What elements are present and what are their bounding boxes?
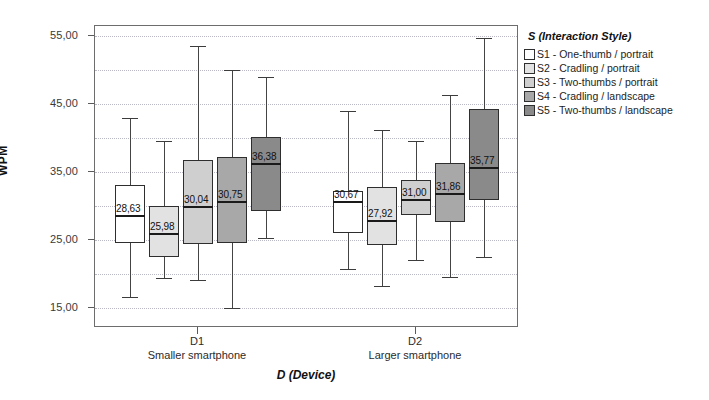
whisker-cap-lower (224, 308, 240, 309)
median-line (333, 201, 363, 203)
legend-item-label: S4 - Cradling / landscape (537, 90, 655, 102)
whisker-cap-lower (190, 280, 206, 281)
median-value-label: 28,63 (116, 203, 141, 214)
whisker-cap-upper (476, 38, 492, 39)
legend-swatch (524, 91, 535, 102)
whisker-cap-upper (340, 111, 356, 112)
median-value-label: 31,86 (436, 181, 461, 192)
median-line (183, 206, 213, 208)
whisker-cap-lower (156, 278, 172, 279)
whisker-cap-upper (408, 141, 424, 142)
median-line (149, 233, 179, 235)
gridline (95, 70, 517, 71)
median-value-label: 30,67 (334, 189, 359, 200)
median-line (469, 167, 499, 169)
x-axis-group-label: D2Larger smartphone (325, 334, 505, 362)
legend-item-list: S1 - One-thumb / portraitS2 - Cradling /… (524, 48, 706, 116)
y-axis-tick-label: 45,00 (8, 97, 78, 109)
x-axis-group-code: D2 (325, 334, 505, 348)
y-axis-tick-label: 25,00 (8, 233, 78, 245)
median-line (115, 215, 145, 217)
whisker-cap-upper (156, 141, 172, 142)
median-line (367, 220, 397, 222)
legend-item-label: S5 - Two-thumbs / landscape (537, 104, 673, 116)
x-axis-group-code: D1 (107, 334, 287, 348)
x-axis-group-desc: Smaller smartphone (107, 348, 287, 362)
whisker-cap-upper (224, 70, 240, 71)
gridline (95, 308, 517, 309)
gridline (95, 274, 517, 275)
legend-item-label: S1 - One-thumb / portrait (537, 48, 653, 60)
median-value-label: 30,04 (184, 194, 209, 205)
plot-area: 28,6330,6725,9827,9230,0431,0030,7531,86… (94, 25, 518, 327)
y-axis-tick-label: 35,00 (8, 165, 78, 177)
median-value-label: 25,98 (150, 221, 175, 232)
boxplot-figure: WPM 15,0025,0035,0045,0055,00 28,6330,67… (0, 0, 709, 400)
median-value-label: 31,00 (402, 187, 427, 198)
legend-item-label: S2 - Cradling / portrait (537, 62, 640, 74)
median-line (401, 199, 431, 201)
whisker-cap-lower (442, 277, 458, 278)
legend-swatch (524, 49, 535, 60)
whisker-cap-lower (408, 260, 424, 261)
whisker-cap-lower (374, 286, 390, 287)
legend-item[interactable]: S3 - Two-thumbs / portrait (524, 76, 706, 88)
gridline (95, 104, 517, 105)
whisker-cap-upper (442, 95, 458, 96)
legend-item[interactable]: S5 - Two-thumbs / landscape (524, 104, 706, 116)
median-line (435, 193, 465, 195)
y-axis-tick-label: 55,00 (8, 29, 78, 41)
whisker-cap-upper (190, 46, 206, 47)
legend-item[interactable]: S2 - Cradling / portrait (524, 62, 706, 74)
legend-item-label: S3 - Two-thumbs / portrait (537, 76, 658, 88)
gridline (95, 36, 517, 37)
whisker-cap-lower (258, 238, 274, 239)
x-axis-title: D (Device) (94, 368, 518, 382)
x-axis-group-desc: Larger smartphone (325, 348, 505, 362)
median-line (217, 201, 247, 203)
gridline (95, 138, 517, 139)
legend-title: S (Interaction Style) (528, 30, 706, 42)
x-axis-group-label: D1Smaller smartphone (107, 334, 287, 362)
whisker-cap-lower (122, 297, 138, 298)
legend-item[interactable]: S4 - Cradling / landscape (524, 90, 706, 102)
legend-swatch (524, 105, 535, 116)
median-value-label: 35,77 (470, 155, 495, 166)
y-axis-tick-label: 15,00 (8, 301, 78, 313)
box (251, 137, 281, 211)
legend-swatch (524, 63, 535, 74)
legend: S (Interaction Style) S1 - One-thumb / p… (524, 30, 706, 118)
legend-swatch (524, 77, 535, 88)
x-axis-tick-mark (415, 327, 416, 334)
whisker-cap-upper (122, 118, 138, 119)
legend-item[interactable]: S1 - One-thumb / portrait (524, 48, 706, 60)
whisker-cap-upper (374, 130, 390, 131)
median-line (251, 163, 281, 165)
median-value-label: 27,92 (368, 208, 393, 219)
x-axis-tick-mark (197, 327, 198, 334)
whisker-cap-lower (340, 269, 356, 270)
median-value-label: 30,75 (218, 189, 243, 200)
whisker-cap-upper (258, 77, 274, 78)
median-value-label: 36,38 (252, 151, 277, 162)
whisker-cap-lower (476, 257, 492, 258)
